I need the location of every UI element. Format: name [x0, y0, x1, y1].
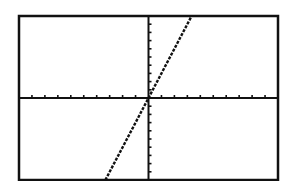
- graph-screen: [0, 0, 290, 181]
- plot-background: [0, 0, 290, 181]
